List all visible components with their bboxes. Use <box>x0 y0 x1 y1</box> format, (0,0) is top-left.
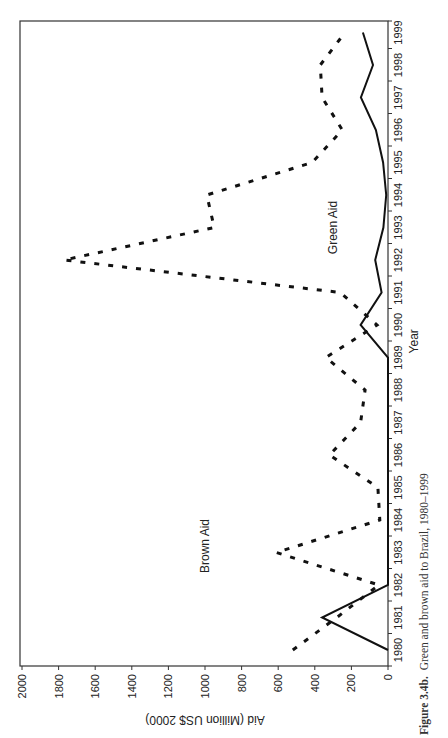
year-tick-label: 1995 <box>392 150 404 174</box>
year-tick-label: 1991 <box>392 280 404 304</box>
year-axis-ticks: 1980198119821983198419851986198719881989… <box>388 20 404 666</box>
aid-tick-label: 200 <box>345 674 357 692</box>
aid-tick-label: 400 <box>309 674 321 692</box>
brown-aid-annotation: Brown Aid <box>198 519 212 573</box>
year-tick-label: 1998 <box>392 53 404 77</box>
aid-tick-label: 2000 <box>16 674 28 698</box>
year-tick-label: 1985 <box>392 475 404 499</box>
aid-tick-label: 800 <box>236 674 248 692</box>
aid-tick-label: 1000 <box>199 674 211 698</box>
aid-tick-label: 1800 <box>53 674 65 698</box>
aid-tick-label: 1400 <box>126 674 138 698</box>
data-series <box>64 33 388 651</box>
aid-tick-label: 0 <box>382 674 394 680</box>
aid-axis-title: Aid (Million US$ 2000) <box>145 713 264 727</box>
year-tick-label: 1982 <box>392 573 404 597</box>
year-tick-label: 1989 <box>392 345 404 369</box>
green-aid-annotation: Green Aid <box>326 201 340 254</box>
year-tick-label: 1992 <box>392 248 404 272</box>
year-tick-label: 1999 <box>392 20 404 44</box>
year-tick-label: 1983 <box>392 540 404 564</box>
line-chart: 0200400600800100012001400160018002000 19… <box>0 0 448 738</box>
year-tick-label: 1993 <box>392 215 404 239</box>
figure-caption: Figure 3.4b. Green and brown aid to Braz… <box>418 473 430 735</box>
aid-axis-ticks: 0200400600800100012001400160018002000 <box>16 666 394 698</box>
caption-label: Figure 3.4b. <box>418 676 430 735</box>
year-tick-label: 1988 <box>392 378 404 402</box>
year-tick-label: 1997 <box>392 85 404 109</box>
aid-tick-label: 1600 <box>89 674 101 698</box>
aid-tick-label: 1200 <box>162 674 174 698</box>
year-tick-label: 1980 <box>392 638 404 662</box>
green-aid-line <box>322 33 388 651</box>
aid-tick-label: 600 <box>272 674 284 692</box>
brown-aid-line <box>64 33 380 651</box>
year-axis-title: Year <box>407 329 421 353</box>
year-tick-label: 1990 <box>392 313 404 337</box>
year-tick-label: 1981 <box>392 605 404 629</box>
year-tick-label: 1994 <box>392 183 404 207</box>
year-tick-label: 1984 <box>392 508 404 532</box>
year-tick-label: 1996 <box>392 118 404 142</box>
year-tick-label: 1986 <box>392 443 404 467</box>
caption-text: Green and brown aid to Brazil, 1980–1999 <box>418 473 430 670</box>
year-tick-label: 1987 <box>392 410 404 434</box>
